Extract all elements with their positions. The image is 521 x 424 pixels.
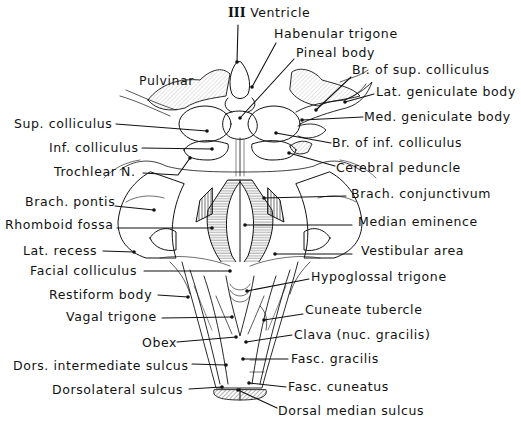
label-sup-colliculus: Sup. colliculus [14, 117, 112, 131]
leader-dot [314, 108, 318, 112]
leader-line [252, 43, 276, 87]
leader-dot [205, 129, 209, 133]
leader-dot [247, 381, 251, 385]
leader-dot [243, 223, 247, 227]
leader-line [142, 148, 212, 149]
label-clava: Clava (nuc. gracilis) [294, 328, 430, 342]
label-dorsolateral-sulcus: Dorsolateral sulcus [52, 383, 183, 397]
label-lat-recess: Lat. recess [23, 244, 97, 258]
leader-dot [210, 147, 214, 151]
leader-dot [234, 335, 238, 339]
leader-dot [245, 289, 249, 293]
leader-dot [220, 385, 224, 389]
label-dorsal-median-sulcus: Dorsal median sulcus [278, 404, 424, 418]
label-restiform-body: Restiform body [49, 288, 152, 302]
leader-line [302, 117, 363, 120]
label-brach-conjunctivum: Brach. conjunctivum [351, 187, 491, 201]
label-inf-colliculus: Inf. colliculus [49, 141, 139, 155]
label-dors-intermediate-sulcus: Dors. intermediate sulcus [13, 359, 189, 373]
leader-line [237, 25, 238, 62]
label-median-eminence: Median eminence [358, 215, 478, 229]
leader-dot [224, 363, 228, 367]
leader-dot [235, 60, 239, 64]
leader-dot [152, 208, 156, 212]
leader-dot [236, 388, 240, 392]
leader-dot [244, 340, 248, 344]
leader-dot [274, 131, 278, 135]
label-rhomboid-fossa: Rhomboid fossa [5, 218, 114, 232]
label-trochlear-n: Trochlear N. [54, 165, 136, 179]
roman-numeral-iii: III [228, 5, 246, 20]
brainstem-diagram: III Ventricle Habenular trigone Pineal b… [0, 0, 521, 424]
leader-dot [186, 295, 190, 299]
leader-line [289, 153, 335, 166]
label-lat-geniculate-body: Lat. geniculate body [376, 85, 516, 99]
label-habenular-trigone: Habenular trigone [274, 27, 398, 41]
label-pineal-body: Pineal body [296, 46, 375, 60]
label-cerebral-peduncle: Cerebral peduncle [336, 161, 461, 175]
leader-dot [241, 357, 245, 361]
leader-dot [250, 85, 254, 89]
label-obex: Obex [142, 336, 177, 350]
label-fasc-gracilis: Fasc. gracilis [291, 352, 379, 366]
leader-dot [188, 156, 192, 160]
label-brach-pontis: Brach. pontis [25, 195, 115, 209]
label-pulvinar: Pulvinar [139, 74, 194, 88]
leader-line [116, 124, 207, 131]
label-med-geniculate-body: Med. geniculate body [364, 110, 511, 124]
label-facial-colliculus: Facial colliculus [30, 264, 137, 278]
label-br-sup-colliculus: Br. of sup. colliculus [352, 63, 490, 77]
label-third-ventricle: III Ventricle [228, 6, 310, 20]
leader-dot [343, 100, 347, 104]
label-vestibular-area: Vestibular area [361, 244, 464, 258]
leader-dot [228, 269, 232, 273]
label-fasc-cuneatus: Fasc. cuneatus [288, 380, 389, 394]
label-hypoglossal-trigone: Hypoglossal trigone [311, 270, 447, 284]
leader-dot [262, 318, 266, 322]
leader-dot [132, 250, 136, 254]
label-br-inf-colliculus: Br. of inf. colliculus [332, 136, 462, 150]
label-vagal-trigone: Vagal trigone [66, 310, 157, 324]
leader-dot [300, 118, 304, 122]
leader-line [240, 59, 294, 118]
leader-dot [238, 116, 242, 120]
leader-dot [210, 226, 214, 230]
leader-line [158, 295, 188, 297]
leader-line [103, 251, 134, 252]
label-cuneate-tubercle: Cuneate tubercle [305, 303, 422, 317]
leader-dot [273, 252, 277, 256]
leader-dot [230, 315, 234, 319]
leader-dot [262, 196, 266, 200]
leader-dot [287, 151, 291, 155]
